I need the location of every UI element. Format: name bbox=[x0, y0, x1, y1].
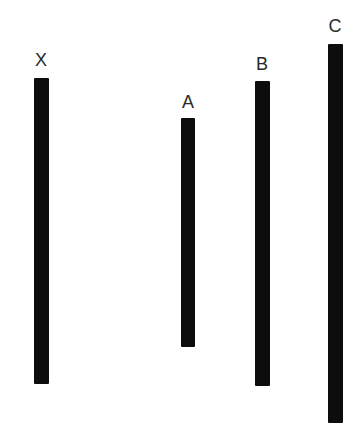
label-c: C bbox=[325, 17, 345, 35]
label-b: B bbox=[252, 55, 272, 73]
line-a bbox=[181, 118, 195, 347]
line-b bbox=[255, 81, 270, 386]
label-x: X bbox=[31, 51, 51, 69]
label-a: A bbox=[178, 93, 198, 111]
line-x bbox=[34, 78, 49, 384]
line-c bbox=[328, 44, 343, 423]
